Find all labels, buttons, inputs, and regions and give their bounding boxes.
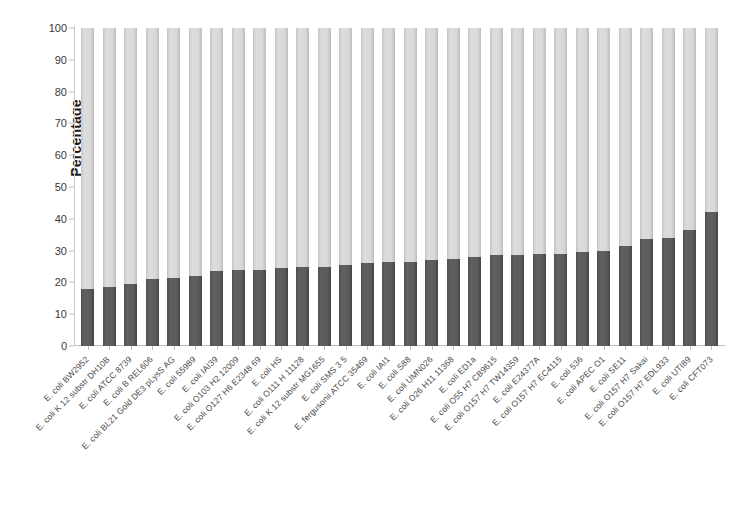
bar-segment-upper[interactable]	[490, 28, 503, 255]
bar-segment-upper[interactable]	[576, 28, 589, 252]
bar-segment-lower[interactable]	[533, 254, 546, 346]
bar-stack[interactable]	[576, 28, 589, 346]
bar-segment-upper[interactable]	[619, 28, 632, 246]
bar-segment-lower[interactable]	[640, 239, 653, 346]
bar-segment-lower[interactable]	[662, 238, 675, 346]
bar-segment-lower[interactable]	[490, 255, 503, 346]
bar-stack[interactable]	[404, 28, 417, 346]
bar-stack[interactable]	[533, 28, 546, 346]
bar-column[interactable]	[404, 28, 417, 346]
bar-stack[interactable]	[597, 28, 610, 346]
bar-stack[interactable]	[662, 28, 675, 346]
bar-stack[interactable]	[167, 28, 180, 346]
bar-segment-upper[interactable]	[318, 28, 331, 267]
bar-column[interactable]	[554, 28, 567, 346]
bar-stack[interactable]	[318, 28, 331, 346]
bar-column[interactable]	[361, 28, 374, 346]
bar-stack[interactable]	[490, 28, 503, 346]
bar-segment-upper[interactable]	[146, 28, 159, 279]
bar-stack[interactable]	[81, 28, 94, 346]
bar-stack[interactable]	[361, 28, 374, 346]
bar-stack[interactable]	[232, 28, 245, 346]
bar-segment-upper[interactable]	[468, 28, 481, 257]
bar-segment-upper[interactable]	[232, 28, 245, 270]
bar-segment-upper[interactable]	[597, 28, 610, 251]
bar-segment-lower[interactable]	[189, 276, 202, 346]
bar-segment-lower[interactable]	[318, 267, 331, 347]
bar-stack[interactable]	[425, 28, 438, 346]
bar-segment-upper[interactable]	[382, 28, 395, 262]
bar-column[interactable]	[662, 28, 675, 346]
bar-column[interactable]	[640, 28, 653, 346]
bar-segment-lower[interactable]	[425, 260, 438, 346]
bar-segment-upper[interactable]	[81, 28, 94, 289]
bar-segment-upper[interactable]	[253, 28, 266, 270]
bar-column[interactable]	[103, 28, 116, 346]
bar-stack[interactable]	[296, 28, 309, 346]
bar-stack[interactable]	[146, 28, 159, 346]
bar-column[interactable]	[425, 28, 438, 346]
bar-column[interactable]	[619, 28, 632, 346]
bar-column[interactable]	[511, 28, 524, 346]
bar-segment-lower[interactable]	[361, 263, 374, 346]
bar-stack[interactable]	[511, 28, 524, 346]
bar-segment-lower[interactable]	[511, 255, 524, 346]
bar-stack[interactable]	[447, 28, 460, 346]
bar-segment-lower[interactable]	[468, 257, 481, 346]
bar-segment-lower[interactable]	[447, 259, 460, 346]
bar-segment-lower[interactable]	[232, 270, 245, 346]
bar-segment-upper[interactable]	[662, 28, 675, 238]
bar-column[interactable]	[468, 28, 481, 346]
bar-segment-upper[interactable]	[683, 28, 696, 230]
bar-stack[interactable]	[253, 28, 266, 346]
bar-column[interactable]	[339, 28, 352, 346]
bar-segment-upper[interactable]	[640, 28, 653, 239]
bar-column[interactable]	[382, 28, 395, 346]
bar-stack[interactable]	[683, 28, 696, 346]
bar-segment-lower[interactable]	[619, 246, 632, 346]
bar-segment-lower[interactable]	[683, 230, 696, 346]
bar-column[interactable]	[490, 28, 503, 346]
bar-column[interactable]	[124, 28, 137, 346]
bar-segment-upper[interactable]	[705, 28, 718, 212]
bar-segment-lower[interactable]	[404, 262, 417, 346]
bar-segment-upper[interactable]	[339, 28, 352, 265]
bar-stack[interactable]	[619, 28, 632, 346]
bar-stack[interactable]	[103, 28, 116, 346]
bar-column[interactable]	[296, 28, 309, 346]
bar-stack[interactable]	[189, 28, 202, 346]
bar-segment-upper[interactable]	[361, 28, 374, 263]
bar-column[interactable]	[683, 28, 696, 346]
bar-segment-upper[interactable]	[189, 28, 202, 276]
bar-column[interactable]	[167, 28, 180, 346]
bar-column[interactable]	[232, 28, 245, 346]
bar-stack[interactable]	[339, 28, 352, 346]
bar-segment-lower[interactable]	[339, 265, 352, 346]
bar-segment-upper[interactable]	[210, 28, 223, 271]
bar-segment-lower[interactable]	[576, 252, 589, 346]
bar-column[interactable]	[189, 28, 202, 346]
bar-segment-lower[interactable]	[705, 212, 718, 346]
bar-segment-upper[interactable]	[404, 28, 417, 262]
bar-segment-lower[interactable]	[275, 268, 288, 346]
bar-column[interactable]	[318, 28, 331, 346]
bar-segment-lower[interactable]	[167, 278, 180, 346]
bar-segment-lower[interactable]	[296, 267, 309, 347]
bar-segment-lower[interactable]	[146, 279, 159, 346]
bar-segment-lower[interactable]	[103, 287, 116, 346]
bar-stack[interactable]	[210, 28, 223, 346]
bar-column[interactable]	[275, 28, 288, 346]
bar-segment-lower[interactable]	[554, 254, 567, 346]
bar-segment-lower[interactable]	[253, 270, 266, 346]
bar-stack[interactable]	[554, 28, 567, 346]
bar-segment-upper[interactable]	[533, 28, 546, 254]
bar-column[interactable]	[210, 28, 223, 346]
bar-segment-lower[interactable]	[597, 251, 610, 346]
bar-column[interactable]	[146, 28, 159, 346]
bar-column[interactable]	[597, 28, 610, 346]
bar-stack[interactable]	[124, 28, 137, 346]
bar-column[interactable]	[576, 28, 589, 346]
bar-segment-upper[interactable]	[425, 28, 438, 260]
bar-segment-lower[interactable]	[210, 271, 223, 346]
bar-stack[interactable]	[640, 28, 653, 346]
